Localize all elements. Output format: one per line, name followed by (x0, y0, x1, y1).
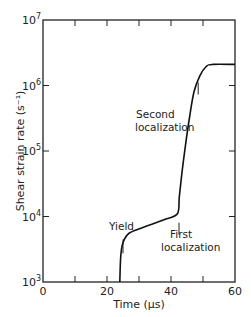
x-tick-label: 60 (228, 285, 242, 298)
annotation-yield: Yield (108, 220, 134, 232)
x-tick-label: 40 (164, 285, 178, 298)
annotation-first: First (170, 228, 192, 240)
annotation-second: Second (136, 108, 175, 120)
x-axis-ticks: 0204060 (40, 20, 243, 298)
y-axis-label: Shear strain rate (s⁻¹) (14, 91, 27, 212)
y-tick-label: 103 (22, 274, 41, 289)
x-tick-label: 20 (100, 285, 114, 298)
chart: 0204060 103104105106107 Time (µs) Shear … (0, 0, 251, 317)
annotation-second-localization: localization (135, 121, 194, 133)
annotation-first-localization: localization (161, 241, 220, 253)
y-tick-label: 107 (22, 12, 41, 27)
y-tick-label: 106 (22, 78, 41, 93)
x-tick-label: 0 (40, 285, 47, 298)
x-axis-label: Time (µs) (112, 298, 165, 311)
